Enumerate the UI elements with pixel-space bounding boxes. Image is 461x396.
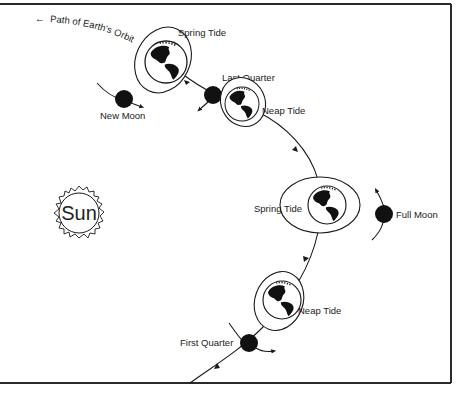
orbit-label-text: Path of Earth's Orbit (50, 13, 137, 45)
moon-first-quarter: First Quarter (180, 323, 274, 352)
moon-icon (375, 205, 393, 223)
sun-label: Sun (61, 202, 97, 224)
earth-icon (145, 41, 187, 83)
spring-tide-label: Spring Tide (178, 27, 226, 38)
new-moon-label: New Moon (100, 110, 145, 121)
earth-icon (263, 281, 301, 319)
earth-neap-tide-lower: Neap Tide (246, 265, 341, 338)
moon-icon (204, 86, 222, 104)
orbit-label-arrow: ← (35, 13, 45, 24)
moon-icon (240, 334, 258, 352)
figure-frame (0, 4, 451, 383)
svg-text:Path of Earth's Orbit: Path of Earth's Orbit (50, 13, 137, 45)
orbit-arrow-icon (292, 146, 298, 152)
moon-new: New Moon (97, 83, 145, 121)
neap-tide-label: Neap Tide (262, 105, 305, 116)
earth-icon (225, 87, 259, 121)
moon-full: Full Moon (372, 190, 438, 240)
tides-diagram: ← Path of Earth's Orbit Sun Spring Tide … (0, 0, 461, 396)
orbit-label: ← Path of Earth's Orbit (35, 13, 138, 46)
orbit-arrow-icon (184, 80, 190, 85)
full-moon-label: Full Moon (396, 209, 438, 220)
orbit-arrow-icon (303, 256, 309, 262)
earth-icon (308, 186, 346, 224)
first-quarter-label: First Quarter (180, 337, 233, 348)
moon-icon (115, 90, 133, 108)
earth-spring-tide-middle: Spring Tide (254, 177, 360, 233)
sun: Sun (54, 186, 104, 238)
neap-tide-label: Neap Tide (298, 305, 341, 316)
spring-tide-label: Spring Tide (254, 203, 302, 214)
